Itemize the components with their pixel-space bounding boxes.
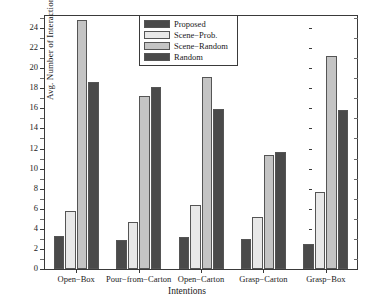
y-tick-mark: [40, 249, 44, 250]
y-tick-label: 14: [30, 122, 39, 133]
y-tick-label: 4: [34, 223, 38, 234]
legend-swatch-icon: [144, 31, 170, 39]
y-tick: 2: [0, 249, 44, 250]
y-minor-tick: [40, 179, 44, 180]
y-tick-label: 18: [30, 82, 39, 93]
bar-proposed-pour-from-carton: [116, 240, 127, 269]
x-tick-mark: [263, 269, 264, 273]
y-tick-mark: [40, 128, 44, 129]
bar-scene-random-grasp-box: [326, 56, 337, 269]
y-tick-label: 10: [30, 163, 39, 174]
y-tick-label: 6: [34, 203, 38, 214]
y-tick-mark: [40, 108, 44, 109]
figure-bar-chart: Avg. Number of Interactions 024681012141…: [0, 0, 374, 303]
legend-label: Scene−Prob.: [174, 31, 217, 40]
legend-label: Scene−Random: [174, 42, 228, 51]
y-minor-tick: [40, 98, 44, 99]
y-tick-label: 24: [30, 22, 39, 33]
y-minor-tick: [40, 199, 44, 200]
y-minor-tick: [40, 259, 44, 260]
y-minor-tick: [40, 78, 44, 79]
y-minor-tick: [40, 138, 44, 139]
bar-scene-random-open-box: [77, 20, 88, 269]
bar-proposed-grasp-carton: [241, 239, 252, 269]
y-minor-tick: [40, 58, 44, 59]
bar-random-grasp-box: [338, 110, 349, 269]
y-minor-tick: [40, 159, 44, 160]
y-tick-mark: [40, 189, 44, 190]
legend-label: Proposed: [174, 20, 206, 29]
y-tick: 24: [0, 28, 44, 29]
bar-random-open-box: [88, 82, 99, 269]
y-tick-label: 20: [30, 62, 39, 73]
bar-scene-prob-open-carton: [190, 205, 201, 269]
chart-legend: ProposedScene−Prob.Scene−RandomRandom: [139, 15, 238, 66]
legend-swatch-icon: [144, 20, 170, 28]
legend-item: Proposed: [144, 19, 233, 29]
y-tick: 6: [0, 209, 44, 210]
x-tick-mark: [201, 269, 202, 273]
x-category-label: Grasp−Box: [276, 274, 374, 284]
y-tick: 0: [0, 269, 44, 270]
bar-scene-prob-pour-from-carton: [128, 222, 139, 269]
x-tick-mark: [326, 269, 327, 273]
legend-item: Random: [144, 52, 233, 62]
y-tick: 4: [0, 229, 44, 230]
y-tick-mark: [40, 68, 44, 69]
legend-item: Scene−Prob.: [144, 30, 233, 40]
legend-item: Scene−Random: [144, 41, 233, 51]
bar-random-open-carton: [213, 109, 224, 269]
y-tick-label: 16: [30, 102, 39, 113]
x-tick-mark: [76, 269, 77, 273]
y-tick-mark: [40, 269, 44, 270]
y-tick-mark-right: [309, 269, 312, 270]
y-tick-label: 12: [30, 143, 39, 154]
bar-scene-prob-grasp-carton: [252, 217, 263, 269]
legend-label: Random: [174, 53, 203, 62]
y-tick-mark: [40, 149, 44, 150]
y-tick: 12: [0, 149, 44, 150]
bar-proposed-open-box: [54, 236, 65, 269]
bar-scene-random-grasp-carton: [264, 155, 275, 269]
x-tick-mark: [139, 269, 140, 273]
y-tick-mark: [40, 88, 44, 89]
x-axis-title: Intentions: [0, 286, 374, 296]
y-tick: 10: [0, 169, 44, 170]
y-tick-mark: [40, 28, 44, 29]
y-tick: 22: [0, 48, 44, 49]
legend-swatch-icon: [144, 53, 170, 61]
y-tick-label: 0: [34, 263, 38, 274]
y-tick: 20: [0, 68, 44, 69]
bar-random-grasp-carton: [275, 152, 286, 269]
bar-scene-random-pour-from-carton: [139, 96, 150, 269]
y-tick-mark: [40, 169, 44, 170]
y-tick: 8: [0, 189, 44, 190]
bar-proposed-open-carton: [179, 237, 190, 269]
y-minor-tick: [40, 239, 44, 240]
y-tick: 14: [0, 128, 44, 129]
y-tick-mark: [40, 229, 44, 230]
y-minor-tick: [40, 219, 44, 220]
legend-swatch-icon: [144, 42, 170, 50]
y-minor-tick: [40, 118, 44, 119]
y-minor-tick: [40, 38, 44, 39]
bar-random-pour-from-carton: [151, 87, 162, 269]
y-tick-label: 22: [30, 42, 39, 53]
bar-scene-prob-grasp-box: [315, 192, 326, 269]
bar-scene-random-open-carton: [202, 77, 213, 269]
bar-proposed-grasp-box: [303, 244, 314, 269]
y-tick-label: 8: [34, 183, 38, 194]
y-tick-mark: [40, 48, 44, 49]
y-tick: 18: [0, 88, 44, 89]
y-tick-label: 2: [34, 243, 38, 254]
y-tick-mark: [40, 209, 44, 210]
y-tick: 16: [0, 108, 44, 109]
y-minor-tick: [40, 18, 44, 19]
bar-scene-prob-open-box: [65, 211, 76, 269]
